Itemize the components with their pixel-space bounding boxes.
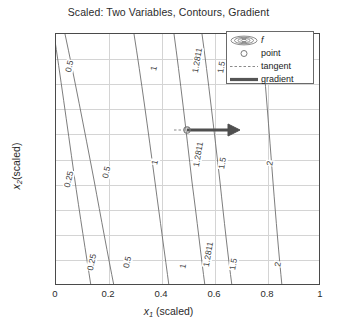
legend-item-gradient[interactable]: gradient bbox=[227, 73, 313, 85]
contour-label: 2 bbox=[273, 261, 282, 268]
circle-marker-icon bbox=[227, 48, 261, 59]
legend-label: point bbox=[261, 48, 281, 58]
figure: Scaled: Two Variables, Contours, Gradien… bbox=[0, 0, 337, 335]
thick-line-icon bbox=[227, 74, 261, 85]
x-tick-label: 0.4 bbox=[154, 288, 167, 299]
legend-label: gradient bbox=[261, 74, 294, 84]
legend[interactable]: f point tangent grad bbox=[226, 31, 314, 84]
dashed-line-icon bbox=[227, 61, 261, 72]
legend-item-tangent[interactable]: tangent bbox=[227, 60, 313, 72]
x-axis-label-rest: (scaled) bbox=[153, 305, 193, 317]
x-tick-label: 0.6 bbox=[207, 288, 220, 299]
contour-label: 1 bbox=[178, 263, 187, 270]
contour-label: 1.5 bbox=[228, 257, 239, 271]
x-tick-label: 0 bbox=[52, 288, 57, 299]
y-axis-label-sub: 2 bbox=[15, 180, 24, 184]
legend-label: tangent bbox=[261, 61, 291, 71]
y-axis-label-rest: (scaled) bbox=[10, 143, 22, 180]
legend-item-f[interactable]: f bbox=[227, 34, 313, 46]
legend-label: f bbox=[261, 35, 264, 45]
y-axis-label: x2(scaled) bbox=[10, 121, 24, 211]
contour-rings-icon bbox=[227, 35, 261, 46]
x-tick-label: 1 bbox=[317, 288, 322, 299]
chart-title: Scaled: Two Variables, Contours, Gradien… bbox=[0, 6, 337, 18]
x-tick-label: 0.2 bbox=[101, 288, 114, 299]
x-tick-label: 0.8 bbox=[260, 288, 273, 299]
x-axis-label: x1 (scaled) bbox=[0, 305, 337, 319]
y-axis-label-var: x bbox=[10, 184, 22, 189]
contour-label: 2 bbox=[265, 160, 274, 167]
contour-label: 1.5 bbox=[217, 156, 228, 170]
legend-item-point[interactable]: point bbox=[227, 47, 313, 59]
